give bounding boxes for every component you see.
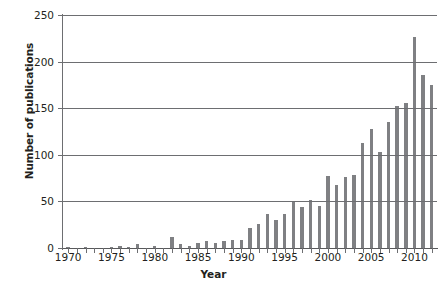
bar-1982 bbox=[170, 237, 173, 248]
bar-2009 bbox=[404, 103, 407, 248]
gridline-150 bbox=[63, 108, 437, 109]
publications-bar-chart: Number of publications 050100150200250 1… bbox=[0, 0, 445, 299]
x-tick-label-2000: 2000 bbox=[308, 250, 348, 265]
bar-2001 bbox=[335, 185, 338, 248]
y-tick-label-250: 250 bbox=[20, 10, 54, 21]
x-axis-tick-labels: 197019751980198519901995200020052010 bbox=[0, 250, 445, 266]
gridline-200 bbox=[63, 62, 437, 63]
bar-2006 bbox=[378, 152, 381, 248]
x-axis-title: Year bbox=[0, 268, 445, 280]
y-tick-label-50: 50 bbox=[20, 196, 54, 207]
bar-2011 bbox=[421, 75, 424, 248]
bar-1994 bbox=[274, 220, 277, 248]
x-tick-label-1970: 1970 bbox=[48, 250, 88, 265]
y-tick-label-200: 200 bbox=[20, 56, 54, 67]
bar-2007 bbox=[387, 122, 390, 248]
bar-2008 bbox=[395, 106, 398, 248]
plot-area: 050100150200250 bbox=[63, 15, 437, 248]
gridline-50 bbox=[63, 201, 437, 202]
y-tick-mark-100 bbox=[58, 155, 63, 156]
bar-1999 bbox=[318, 206, 321, 248]
x-tick-label-1995: 1995 bbox=[265, 250, 305, 265]
bar-2000 bbox=[326, 176, 329, 248]
bar-1992 bbox=[257, 224, 260, 248]
bar-2003 bbox=[352, 175, 355, 248]
gridline-250 bbox=[63, 15, 437, 16]
y-tick-mark-50 bbox=[58, 201, 63, 202]
bar-1997 bbox=[300, 207, 303, 248]
bar-1998 bbox=[309, 200, 312, 248]
bar-1991 bbox=[248, 228, 251, 249]
bar-2012 bbox=[430, 85, 433, 248]
gridline-100 bbox=[63, 155, 437, 156]
y-tick-label-150: 150 bbox=[20, 103, 54, 114]
x-tick-label-1985: 1985 bbox=[178, 250, 218, 265]
bar-2004 bbox=[361, 143, 364, 248]
x-tick-label-2010: 2010 bbox=[394, 250, 434, 265]
bar-1993 bbox=[266, 214, 269, 248]
bar-1996 bbox=[292, 202, 295, 248]
bar-1988 bbox=[222, 241, 225, 248]
x-tick-label-1975: 1975 bbox=[91, 250, 131, 265]
y-tick-mark-150 bbox=[58, 108, 63, 109]
x-tick-label-1990: 1990 bbox=[221, 250, 261, 265]
bar-2010 bbox=[413, 37, 416, 248]
bar-2005 bbox=[370, 129, 373, 248]
y-tick-mark-250 bbox=[58, 15, 63, 16]
bar-series bbox=[63, 15, 437, 248]
x-tick-label-2005: 2005 bbox=[351, 250, 391, 265]
bar-1990 bbox=[240, 240, 243, 248]
bar-1995 bbox=[283, 214, 286, 248]
y-tick-label-100: 100 bbox=[20, 150, 54, 161]
x-tick-label-1980: 1980 bbox=[135, 250, 175, 265]
x-axis-title-text: Year bbox=[200, 268, 226, 280]
bar-2002 bbox=[344, 177, 347, 248]
bar-1989 bbox=[231, 240, 234, 248]
y-tick-mark-200 bbox=[58, 62, 63, 63]
